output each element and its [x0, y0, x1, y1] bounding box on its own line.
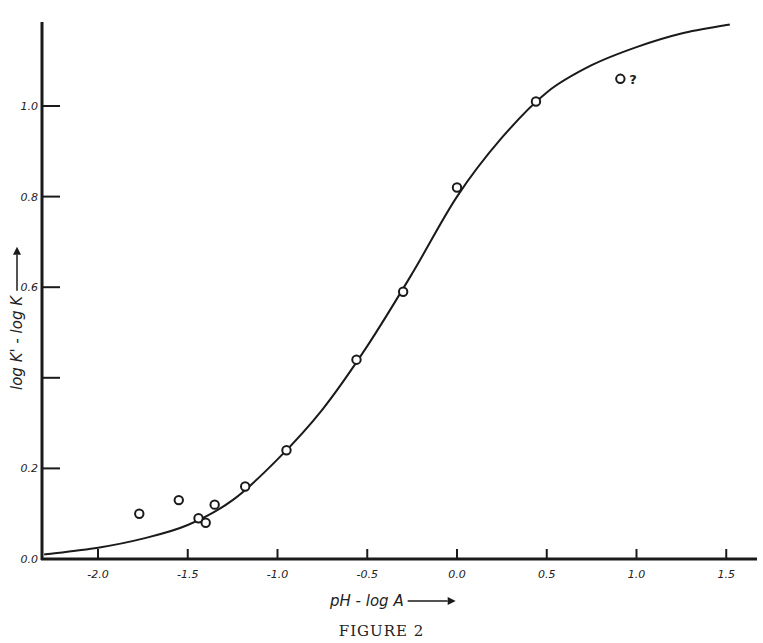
data-point-open-circle-icon: [616, 75, 624, 83]
x-tick-label: -1.0: [267, 568, 288, 581]
data-point-open-circle-icon: [241, 482, 249, 490]
data-point-open-circle-icon: [175, 496, 183, 504]
x-axis-label: pH - log A: [329, 592, 404, 610]
y-ticks: 0.00.20.60.81.0: [21, 100, 61, 566]
y-tick-label: 0.2: [21, 462, 39, 475]
x-tick-label: -1.5: [177, 568, 198, 581]
x-tick-label: 0.5: [538, 568, 556, 581]
y-tick-label: 0.0: [21, 553, 39, 566]
y-axis-label: log K' - log K: [8, 295, 26, 390]
x-tick-label: -0.5: [357, 568, 378, 581]
question-annotation: ?: [629, 72, 637, 87]
data-point-open-circle-icon: [210, 500, 218, 508]
y-tick-label: 0.8: [21, 191, 39, 204]
data-point-open-circle-icon: [399, 288, 407, 296]
y-tick-label: 1.0: [21, 100, 39, 113]
y-axis-title: log K' - log K: [8, 247, 26, 390]
data-point-open-circle-icon: [282, 446, 290, 454]
x-arrowhead-icon: [448, 597, 456, 605]
x-tick-label: 1.0: [628, 568, 646, 581]
x-tick-label: 1.5: [718, 568, 736, 581]
data-point-open-circle-icon: [202, 519, 210, 527]
x-tick-label: -2.0: [87, 568, 108, 581]
data-point-open-circle-icon: [352, 355, 360, 363]
x-ticks: -2.0-1.5-1.0-0.50.00.51.01.5: [87, 549, 735, 581]
y-arrowhead-icon: [13, 247, 21, 255]
annotations: ?: [629, 72, 637, 87]
y-tick-label: 0.6: [21, 281, 39, 294]
chart: -2.0-1.5-1.0-0.50.00.51.01.5 0.00.20.60.…: [0, 0, 763, 643]
theoretical-curve: [44, 24, 730, 554]
x-tick-label: 0.0: [448, 568, 466, 581]
data-point-open-circle-icon: [135, 510, 143, 518]
data-point-open-circle-icon: [453, 183, 461, 191]
figure-caption: FIGURE 2: [0, 622, 763, 640]
data-point-open-circle-icon: [532, 97, 540, 105]
data-points: [135, 75, 624, 527]
